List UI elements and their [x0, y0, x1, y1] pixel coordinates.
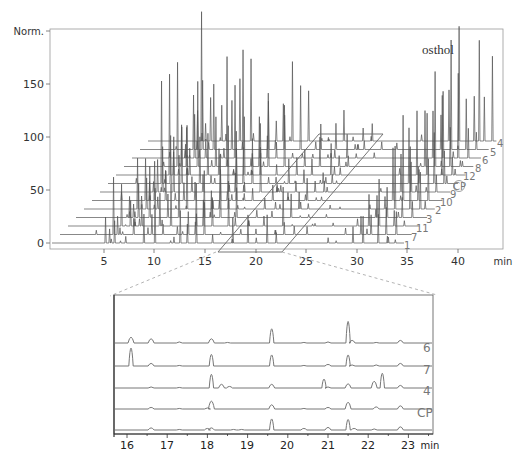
- main-y-axis: [46, 31, 50, 243]
- osthol-annotation: osthol: [422, 42, 454, 57]
- inset-x-tick-18: 18: [200, 439, 214, 452]
- inset-trace-6: [115, 321, 432, 343]
- inset-label-7: 7: [423, 363, 431, 377]
- main-plot-frame: [50, 29, 503, 249]
- x-tick-40: 40: [451, 255, 465, 268]
- trace-line: [124, 57, 473, 167]
- x-tick-30: 30: [350, 255, 364, 268]
- trace-label-3: 3: [426, 214, 432, 225]
- trace-12: [116, 74, 466, 175]
- trace-label-cp: CP: [453, 181, 466, 192]
- x-tick-35: 35: [400, 255, 414, 268]
- inset-chart: 16 17 18 19 20 21 22 23 min 6 7 4 CP: [114, 295, 439, 452]
- trace-6: [132, 73, 481, 158]
- inset-x-tick-19: 19: [240, 439, 254, 452]
- main-chart: 0 50 100 150 Norm. 5 10 15 20 25 30 35 4…: [14, 12, 513, 296]
- inset-x-ticks: [127, 434, 429, 438]
- y-tick-100: 100: [23, 131, 44, 144]
- trace-label-8: 8: [475, 163, 481, 174]
- inset-trace-4: [115, 373, 432, 388]
- x-axis-unit: min: [494, 256, 513, 267]
- inset-trace-bottom: [115, 419, 432, 430]
- trace-label-1: 1: [404, 240, 410, 251]
- inset-x-tick-16: 16: [120, 439, 134, 452]
- inset-traces: [115, 321, 432, 430]
- trace-line: [116, 74, 466, 175]
- inset-x-axis-unit: min: [421, 440, 440, 451]
- trace-line: [148, 12, 496, 141]
- trace-4: [148, 12, 496, 141]
- inset-label-4: 4: [423, 384, 431, 398]
- x-tick-10: 10: [147, 255, 161, 268]
- inset-trace-7: [115, 348, 432, 366]
- y-tick-0: 0: [37, 237, 44, 250]
- inset-x-tick-17: 17: [160, 439, 174, 452]
- chromatogram-figure: 0 50 100 150 Norm. 5 10 15 20 25 30 35 4…: [0, 0, 530, 475]
- y-tick-150: 150: [23, 78, 44, 91]
- trace-line: [100, 126, 450, 192]
- trace-9: [100, 126, 450, 192]
- trace-label-12: 12: [463, 171, 476, 182]
- inset-label-6: 6: [423, 341, 431, 355]
- trace-label-4: 4: [497, 138, 503, 149]
- inset-x-tick-22: 22: [361, 439, 375, 452]
- trace-line: [132, 73, 481, 158]
- trace-label-5: 5: [490, 147, 496, 158]
- trace-8: [124, 57, 473, 167]
- inset-x-tick-23: 23: [401, 439, 415, 452]
- trace-label-6: 6: [482, 155, 488, 166]
- x-tick-5: 5: [101, 255, 108, 268]
- inset-label-cp: CP: [417, 406, 433, 420]
- inset-x-tick-20: 20: [280, 439, 294, 452]
- inset-trace-CP: [115, 401, 432, 409]
- inset-x-tick-21: 21: [321, 439, 335, 452]
- y-tick-50: 50: [30, 184, 44, 197]
- x-tick-20: 20: [249, 255, 263, 268]
- y-axis-label: Norm.: [14, 26, 44, 37]
